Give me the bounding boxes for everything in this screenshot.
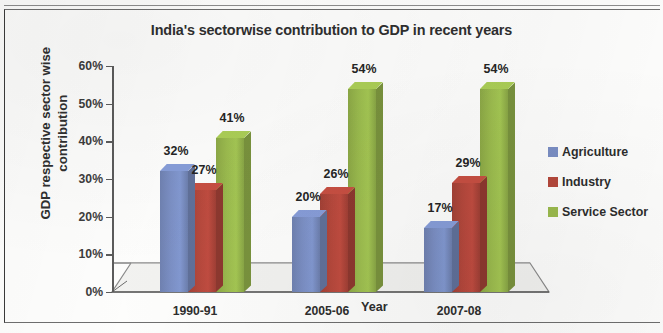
bar-side-face <box>216 184 223 292</box>
bar-value-label: 54% <box>352 62 377 76</box>
bar-value-label: 29% <box>456 156 481 170</box>
x-axis-title: Year <box>361 300 388 314</box>
bar-value-label: 20% <box>296 190 321 204</box>
x-axis-category-label: 2005-06 <box>305 304 350 318</box>
y-axis-title: GDP respective sector wise contribution <box>37 13 71 253</box>
bar <box>292 217 320 292</box>
y-axis-tick-mark <box>106 254 112 255</box>
bar-front-face <box>160 171 188 292</box>
legend-item-label: Service Sector <box>562 205 648 219</box>
legend-item-service-sector[interactable]: Service Sector <box>548 197 648 227</box>
bar-side-face <box>320 210 327 292</box>
y-axis-tick-mark <box>106 66 112 67</box>
bar-side-face <box>508 82 515 292</box>
legend-item-label: Agriculture <box>562 145 628 159</box>
x-axis-category-label: 1990-91 <box>173 304 218 318</box>
bar-side-face <box>188 165 195 292</box>
y-axis-tick-mark <box>106 141 112 142</box>
chart-container: India's sectorwise contribution to GDP i… <box>0 0 663 333</box>
bar-value-label: 54% <box>484 62 509 76</box>
bar-front-face <box>292 217 320 292</box>
y-axis-tick-mark <box>106 217 112 218</box>
bar-side-face <box>376 82 383 292</box>
legend-swatch-icon <box>548 147 558 157</box>
chart-legend: AgricultureIndustryService Sector <box>548 137 648 227</box>
chart-title: India's sectorwise contribution to GDP i… <box>0 22 663 38</box>
bar <box>424 228 452 292</box>
y-axis-title-line-1: GDP respective sector wise <box>37 13 54 253</box>
y-axis-tick-label: 0% <box>57 285 103 299</box>
y-axis-tick-mark <box>106 104 112 105</box>
bar-side-face <box>244 131 251 292</box>
legend-item-label: Industry <box>562 175 611 189</box>
bar-value-label: 32% <box>164 144 189 158</box>
bar-front-face <box>424 228 452 292</box>
y-axis-tick-mark <box>106 179 112 180</box>
legend-swatch-icon <box>548 207 558 217</box>
bar-value-label: 26% <box>324 167 349 181</box>
bar-side-face <box>348 188 355 292</box>
legend-swatch-icon <box>548 177 558 187</box>
y-axis-line <box>112 66 114 292</box>
x-axis-category-label: 2007-08 <box>437 304 482 318</box>
bar-value-label: 27% <box>192 163 217 177</box>
y-axis-tick-mark <box>106 292 112 293</box>
legend-item-industry[interactable]: Industry <box>548 167 648 197</box>
legend-item-agriculture[interactable]: Agriculture <box>548 137 648 167</box>
bar-side-face <box>480 176 487 292</box>
bar-value-label: 41% <box>220 111 245 125</box>
y-axis-title-line-2: contribution <box>54 13 71 253</box>
bar-value-label: 17% <box>428 201 453 215</box>
bar-side-face <box>452 221 459 292</box>
bar <box>160 171 188 292</box>
